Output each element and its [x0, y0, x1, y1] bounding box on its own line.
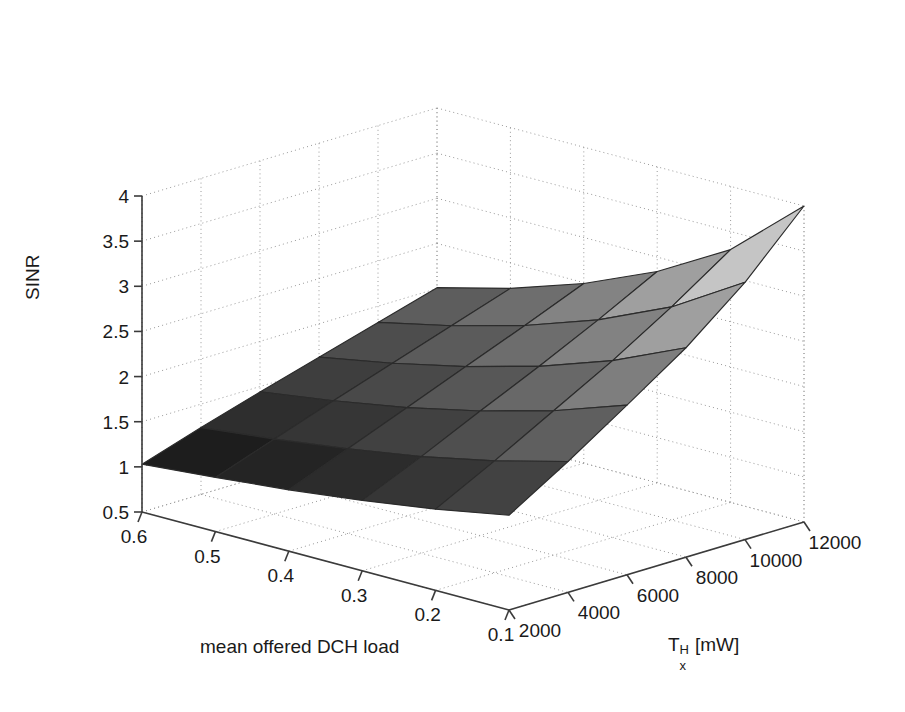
tick-label: 0.6 [121, 526, 147, 547]
tick-label: 12000 [809, 532, 862, 553]
y-axis-title-base: T [668, 634, 680, 655]
tick-label: 0.1 [488, 624, 514, 645]
z-axis-title: SINR [22, 255, 44, 300]
tick-label: 4 [118, 186, 129, 207]
y-axis-title-unit: [mW] [695, 634, 739, 655]
surface-plot-figure: 0.511.522.533.540.60.50.40.30.20.1200040… [0, 0, 905, 712]
tick-label: 2.5 [103, 321, 129, 342]
tick-label: 0.3 [341, 585, 367, 606]
tick-label: 2 [118, 367, 129, 388]
tick-label: 0.2 [414, 604, 440, 625]
x-axis-title: mean offered DCH load [200, 636, 399, 658]
tick-label: 0.5 [103, 502, 129, 523]
tick-label: 0.5 [194, 546, 220, 567]
tick-label: 8000 [696, 567, 738, 588]
tick-label: 4000 [578, 602, 620, 623]
tick-label: 3.5 [103, 231, 129, 252]
tick-label: 10000 [750, 550, 803, 571]
tick-label: 1.5 [103, 412, 129, 433]
surface-plot-svg: 0.511.522.533.540.60.50.40.30.20.1200040… [0, 0, 905, 712]
tick-label: 2000 [519, 620, 561, 641]
tick-label: 3 [118, 276, 129, 297]
tick-label: 0.4 [268, 565, 295, 586]
tick-label: 6000 [637, 585, 679, 606]
y-axis-title: THx [mW] [668, 634, 739, 656]
y-axis-title-subscript: x [680, 658, 687, 673]
y-axis-title-superscript: H [680, 642, 689, 657]
tick-label: 1 [118, 457, 129, 478]
